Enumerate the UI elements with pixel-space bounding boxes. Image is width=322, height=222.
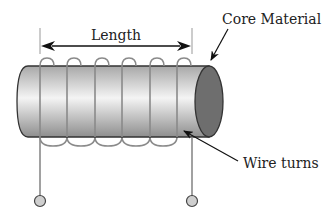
wire-turns-label: Wire turns bbox=[243, 155, 319, 171]
core-arrow-icon bbox=[211, 29, 228, 60]
leads bbox=[35, 137, 198, 207]
core-face bbox=[195, 66, 223, 137]
length-dimension: Length bbox=[40, 27, 192, 54]
terminal-right-icon bbox=[187, 196, 198, 207]
core-callout: Core Material bbox=[211, 11, 322, 60]
terminal-left-icon bbox=[35, 196, 46, 207]
length-label: Length bbox=[91, 27, 141, 43]
solenoid-diagram: Length Core Material bbox=[0, 0, 322, 222]
wire-back-loops bbox=[40, 137, 177, 146]
core-material-label: Core Material bbox=[222, 11, 322, 27]
core-cylinder bbox=[17, 66, 223, 137]
cylinder-body bbox=[17, 66, 209, 137]
